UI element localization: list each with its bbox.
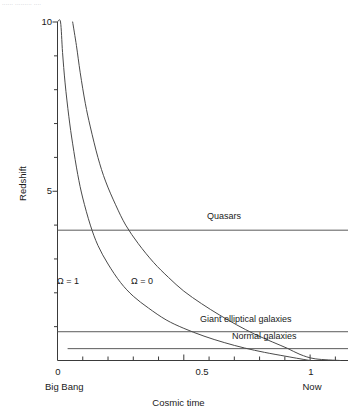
x-sublabel-big-bang: Big Bang (45, 381, 115, 392)
figure-root: ...... ......... .... Redshift Cosmic ti… (0, 0, 357, 419)
curve-label-omega-1: Ω = 1 (57, 276, 79, 286)
y-tick-label-10: 10 (30, 16, 52, 27)
x-tick-label-1: 1 (299, 366, 323, 377)
annotation-label-quasars: Quasars (207, 211, 241, 221)
x-axis-ticks (83, 355, 336, 361)
annotation-label-giant-elliptical-galaxies: Giant elliptical galaxies (200, 314, 292, 324)
annotation-lines (58, 230, 349, 348)
curve-label-omega-0: Ω = 0 (131, 276, 153, 286)
y-tick-label-5: 5 (30, 185, 52, 196)
curve-omega-0 (73, 22, 341, 361)
x-tick-label-0-5: 0.5 (190, 366, 214, 377)
annotation-label-normal-galaxies: Normal galaxies (232, 331, 297, 341)
x-sublabel-now: Now (292, 381, 332, 392)
y-axis-title: Redshift (17, 154, 28, 214)
x-axis-title: Cosmic time (0, 397, 357, 408)
model-curves (58, 20, 341, 361)
axes (58, 22, 349, 361)
redshift-vs-cosmic-time-plot (0, 0, 357, 419)
x-tick-label-0: 0 (46, 366, 70, 377)
curve-omega-1 (58, 20, 311, 361)
